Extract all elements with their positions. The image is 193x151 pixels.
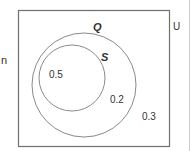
region-s-value: 0.5 xyxy=(49,69,63,80)
right-text-fragment: U xyxy=(173,21,180,32)
venn-diagram: n Q S 0.5 0.2 0.3 U xyxy=(0,0,193,151)
set-q-label: Q xyxy=(93,21,102,33)
set-q-circle xyxy=(32,33,136,137)
region-q-only-value: 0.2 xyxy=(110,94,124,105)
set-s-label: S xyxy=(101,51,109,63)
region-outside-value: 0.3 xyxy=(142,111,156,122)
left-text-fragment: n xyxy=(1,54,7,66)
